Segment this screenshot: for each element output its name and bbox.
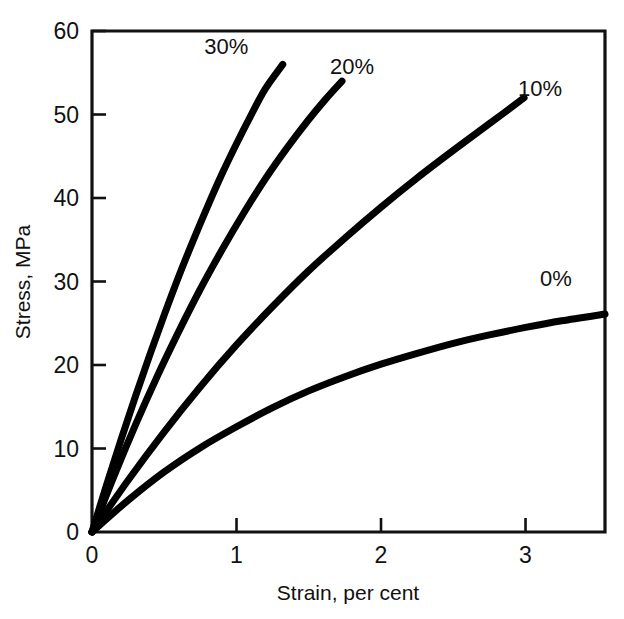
y-tick-label: 60 [53,18,79,44]
x-tick-label: 0 [86,542,99,568]
x-axis-tick-labels: 0123 [86,542,532,568]
x-tick-label: 1 [230,542,243,568]
curve-series-10pct [92,98,524,532]
y-tick-label: 10 [53,436,79,462]
x-tick-label: 2 [375,542,388,568]
curve-series-labels: 30%20%10%0% [204,34,571,290]
x-axis-tick-marks [237,518,526,532]
y-axis-tick-marks [92,31,106,449]
curve-label-10pct: 10% [518,76,562,101]
y-axis-title: Stress, MPa [11,225,34,340]
stress-strain-chart-figure: 0102030405060 0123 30%20%10%0% Strain, p… [0,0,624,619]
curve-label-20pct: 20% [330,54,374,79]
y-tick-label: 30 [53,269,79,295]
y-tick-label: 20 [53,352,79,378]
y-axis-tick-labels: 0102030405060 [53,18,79,545]
curve-label-30pct: 30% [204,34,248,59]
curve-label-0pct: 0% [540,266,572,291]
y-tick-label: 0 [66,519,79,545]
plot-frame [92,31,605,532]
curve-series-20pct [92,81,342,532]
y-tick-label: 40 [53,185,79,211]
y-tick-label: 50 [53,102,79,128]
x-axis-title: Strain, per cent [277,581,420,604]
data-curves [92,64,605,532]
x-tick-label: 3 [519,542,532,568]
chart-canvas: 0102030405060 0123 30%20%10%0% Strain, p… [0,0,624,619]
